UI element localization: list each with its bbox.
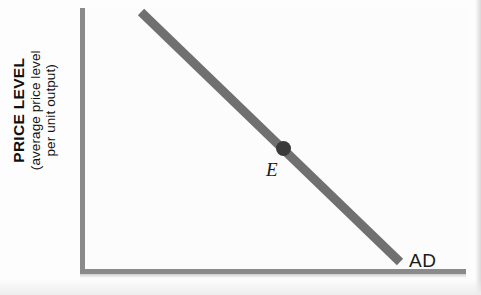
y-axis-line	[80, 8, 85, 274]
ad-curve-label: AD	[409, 250, 436, 272]
aggregate-demand-chart: E AD PRICE LEVEL (average price level pe…	[0, 0, 481, 295]
plot-area	[84, 8, 466, 272]
y-axis-label-sub-line1: (average price level	[28, 10, 43, 210]
y-axis-label-main: PRICE LEVEL	[10, 10, 27, 210]
scan-edge-bottom	[0, 279, 481, 295]
equilibrium-point	[276, 141, 291, 156]
x-axis-shadow	[80, 274, 466, 278]
scan-edge-right	[475, 0, 481, 295]
y-axis-label-sub-line2: per unit output)	[43, 10, 58, 210]
y-axis-label: PRICE LEVEL (average price level per uni…	[10, 10, 59, 210]
equilibrium-label: E	[266, 159, 278, 181]
